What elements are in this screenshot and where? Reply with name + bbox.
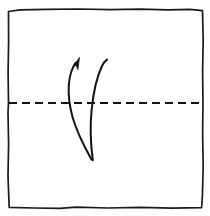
origami-diagram-canvas: Origami valley fold step [0, 0, 210, 216]
paper-sheet-outline [8, 9, 203, 208]
fold-diagram: Origami valley fold step [0, 0, 210, 216]
